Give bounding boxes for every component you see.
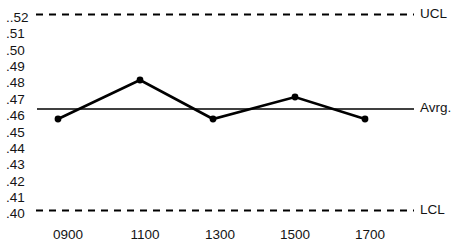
lcl-label: LCL: [420, 203, 445, 217]
control-chart: ..52 .51 .50 .49 .48 .47 .46 .45 .44 .43…: [0, 0, 459, 252]
x-axis-tick-label: 1500: [272, 227, 318, 242]
x-axis-tick-label: 1100: [122, 227, 168, 242]
average-label: Avrg.: [420, 101, 451, 115]
data-point-marker: [362, 116, 369, 123]
data-series-line: [58, 80, 365, 119]
data-point-marker: [137, 77, 144, 84]
data-point-marker: [292, 94, 299, 101]
x-axis-tick-label: 0900: [45, 227, 91, 242]
ucl-label: UCL: [420, 7, 447, 21]
data-point-marker: [55, 116, 62, 123]
plot-area: [0, 0, 459, 252]
data-point-marker: [210, 116, 217, 123]
x-axis-tick-label: 1300: [197, 227, 243, 242]
x-axis-tick-label: 1700: [347, 227, 393, 242]
